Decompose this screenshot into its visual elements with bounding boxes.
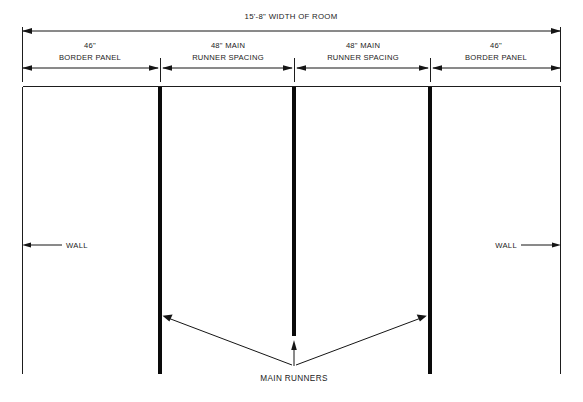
right-border-panel-label: BORDER PANEL [465, 53, 527, 62]
right-border-panel-measure: 46" [490, 41, 502, 50]
segment-dimension-right-spacing [296, 65, 429, 71]
right-runner-spacing-measure: 48" MAIN [346, 41, 380, 50]
left-runner-spacing-label: RUNNER SPACING [192, 53, 264, 62]
segment-arrow-2-right-icon [283, 65, 293, 71]
segment-arrow-1-right-icon [149, 65, 159, 71]
segment-arrow-4-right-icon [551, 65, 561, 71]
wall-callout-left: WALL [22, 241, 88, 250]
segment-arrow-3-left-icon [296, 65, 306, 71]
diagram-canvas: 15'-8" WIDTH OF ROOM 46" BORDER PANEL 48… [0, 0, 583, 402]
segment-dimension-left-spacing [162, 65, 293, 71]
main-runners-arrow-right-icon [417, 314, 427, 321]
wall-right-label: WALL [495, 241, 517, 250]
segment-arrow-1-left-icon [22, 65, 32, 71]
wall-right-arrow-icon [552, 242, 561, 247]
overall-arrow-right-icon [551, 28, 561, 34]
main-runners-leader-left [168, 318, 292, 365]
main-runners-arrow-center-icon [291, 340, 297, 350]
segment-dimension-left-border [22, 65, 159, 71]
overall-width-label: 15'-8" WIDTH OF ROOM [245, 12, 338, 21]
segment-arrow-2-left-icon [162, 65, 172, 71]
wall-callout-right: WALL [495, 241, 561, 250]
main-runners-leader-right [296, 318, 421, 365]
segment-dimension-right-border [432, 65, 561, 71]
overall-arrow-left-icon [22, 28, 32, 34]
wall-left-label: WALL [66, 241, 88, 250]
left-border-panel-label: BORDER PANEL [59, 53, 121, 62]
ceiling-layout-diagram: 15'-8" WIDTH OF ROOM 46" BORDER PANEL 48… [0, 0, 583, 402]
right-runner-spacing-label: RUNNER SPACING [327, 53, 399, 62]
main-runners-label: MAIN RUNNERS [260, 374, 328, 383]
wall-left-arrow-icon [22, 242, 31, 247]
segment-arrow-3-right-icon [419, 65, 429, 71]
room-outline [23, 87, 561, 375]
overall-width-dimension [22, 28, 561, 34]
left-runner-spacing-measure: 48" MAIN [211, 41, 245, 50]
segment-arrow-4-left-icon [432, 65, 442, 71]
left-border-panel-measure: 46" [84, 41, 96, 50]
main-runners-arrow-left-icon [163, 314, 173, 321]
